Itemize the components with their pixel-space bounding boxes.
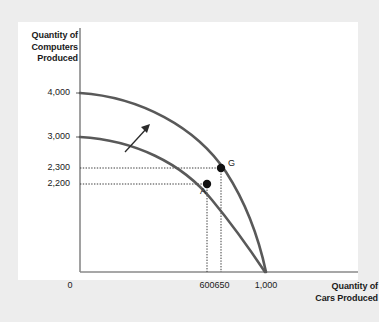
point-label-g: G: [228, 158, 235, 168]
x-axis-title-line1: Quantity of: [286, 281, 378, 293]
y-tick-label-3000: 3,000: [30, 131, 70, 141]
y-tick-label-4000: 4,000: [30, 87, 70, 97]
y-axis-title: Quantity of Computers Produced: [8, 30, 78, 65]
x-tick-label-1000: 1,000: [250, 280, 282, 290]
point-marker-g: [217, 164, 225, 172]
ppf-curve-outer: [80, 93, 266, 272]
ppf-curve-inner: [80, 137, 265, 272]
y-tick-label-2200: 2,200: [30, 178, 70, 188]
x-tick-label-650: 650: [207, 280, 237, 290]
y-tick-label-2300: 2,300: [30, 162, 70, 172]
point-label-a: A: [200, 186, 206, 196]
y-axis-title-line2: Computers: [8, 42, 78, 54]
chart-figure: Quantity of Computers Produced Quantity …: [0, 0, 379, 322]
y-axis-title-line1: Quantity of: [8, 30, 78, 42]
x-tick-label-0: 0: [60, 280, 80, 290]
y-axis-title-line3: Produced: [8, 53, 78, 65]
x-axis-title: Quantity of Cars Produced: [286, 281, 378, 304]
x-axis-title-line2: Cars Produced: [286, 293, 378, 305]
